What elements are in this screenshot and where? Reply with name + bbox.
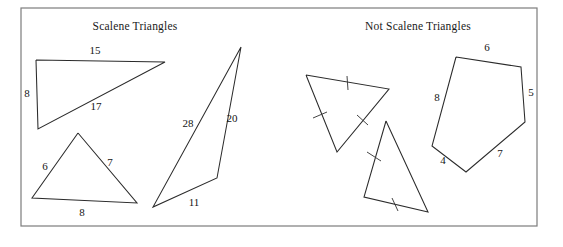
side-length-label-obtuse-thin-triangle-1: 20 — [227, 112, 239, 124]
side-length-label-pentagon-0: 6 — [484, 41, 490, 53]
side-length-label-pentagon-4: 7 — [497, 147, 503, 159]
side-length-label-right-triangle-1: 8 — [24, 87, 30, 99]
side-length-label-obtuse-thin-triangle-2: 11 — [189, 196, 200, 208]
side-length-label-pentagon-1: 5 — [528, 86, 534, 98]
side-length-label-acute-triangle-2: 8 — [79, 206, 85, 218]
panel-title-not-scalene: Not Scalene Triangles — [365, 20, 471, 33]
panel-title-scalene: Scalene Triangles — [93, 20, 178, 33]
side-length-label-right-triangle-2: 17 — [91, 100, 103, 112]
side-length-label-right-triangle-0: 15 — [90, 44, 102, 56]
side-length-label-pentagon-2: 8 — [434, 91, 440, 103]
scalene-triangles-figure: Scalene TrianglesNot Scalene Triangles 1… — [0, 0, 563, 247]
side-length-label-acute-triangle-0: 6 — [42, 160, 48, 172]
side-length-label-acute-triangle-1: 7 — [107, 156, 113, 168]
side-length-label-obtuse-thin-triangle-0: 28 — [183, 117, 195, 129]
figure-canvas: Scalene TrianglesNot Scalene Triangles 1… — [0, 0, 563, 247]
side-length-label-pentagon-3: 4 — [440, 154, 446, 166]
